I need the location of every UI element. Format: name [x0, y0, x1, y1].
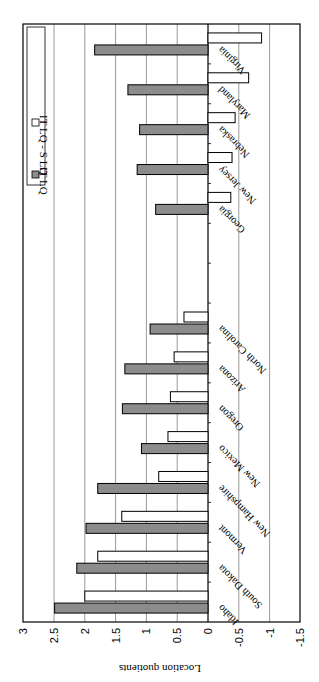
tick-label: -1.5: [294, 628, 306, 647]
bar-it-lq: [137, 165, 208, 175]
category-label: Virginia: [215, 44, 247, 76]
bar-it-lq: [95, 45, 208, 55]
category-label: Vermont: [216, 523, 249, 556]
bar-it-lq-minus-s-lq: [168, 432, 208, 442]
category-label: Idaho: [216, 603, 241, 628]
bar-it-lq-minus-s-lq: [170, 392, 208, 402]
tick-label: 0.5: [171, 628, 183, 643]
category-label: Oregon: [215, 403, 246, 434]
legend-label-it-lq-minus-s-lq: IT LQ - S LQ: [38, 115, 50, 175]
tick-labels: 32.521.510.50-0.5-1-1.5: [17, 628, 306, 647]
legend-swatch-it-lq-minus-s-lq: [32, 119, 39, 126]
bar-it-lq: [55, 603, 208, 613]
bar-it-lq-minus-s-lq: [208, 113, 235, 123]
bar-it-lq: [77, 563, 208, 573]
bar-it-lq-minus-s-lq: [208, 192, 231, 202]
bar-it-lq: [140, 125, 208, 135]
bar-it-lq: [98, 483, 208, 493]
bar-it-lq-minus-s-lq: [122, 511, 208, 521]
category-label: Arizona: [215, 363, 247, 395]
tick-label: 2: [79, 628, 91, 634]
tick-label: -1: [264, 628, 276, 638]
tick-label: 1: [140, 628, 152, 634]
bar-it-lq: [125, 364, 208, 374]
value-axis-title: Location quotients: [119, 663, 201, 675]
tick-label: -0.5: [233, 628, 245, 647]
bars: [55, 33, 262, 613]
tick-label: 0: [202, 628, 214, 634]
legend-swatch-it-lq: [32, 171, 39, 178]
bar-it-lq: [150, 324, 208, 334]
bar-it-lq: [141, 444, 208, 454]
legend: IT LQ IT LQ - S LQ: [27, 27, 50, 195]
bar-it-lq: [122, 404, 208, 414]
category-labels: IdahoSouth DakotaVermontNew HampshireNew…: [215, 44, 272, 627]
bar-it-lq-minus-s-lq: [85, 591, 208, 601]
category-label: Georgia: [215, 204, 247, 236]
tick-label: 2.5: [48, 628, 60, 643]
bar-it-lq: [86, 523, 208, 533]
bar-it-lq: [128, 85, 208, 95]
bar-it-lq-minus-s-lq: [184, 312, 208, 322]
bar-it-lq-minus-s-lq: [98, 551, 208, 561]
location-quotient-chart: 32.521.510.50-0.5-1-1.5 IdahoSouth Dakot…: [0, 0, 319, 682]
tick-label: 1.5: [110, 628, 122, 643]
tick-label: 3: [17, 628, 29, 634]
bar-it-lq-minus-s-lq: [159, 471, 208, 481]
bar-it-lq: [156, 204, 208, 214]
bar-it-lq-minus-s-lq: [208, 153, 232, 163]
bar-it-lq-minus-s-lq: [208, 33, 262, 43]
bar-it-lq-minus-s-lq: [174, 352, 208, 362]
